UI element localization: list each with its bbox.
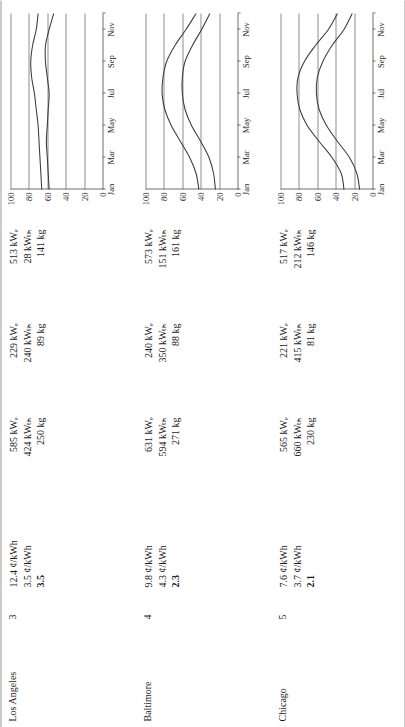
system-a-cell: 585 kWₑ 424 kWₜₕ 250 kg [6, 417, 47, 491]
system-a-therm: 660 kWₜₕ [290, 417, 304, 491]
rotated-table-stage: Los Angeles 3 12.4 ¢/kWh 3.5 ¢/kWh 3.5 5… [0, 0, 405, 727]
system-a-therm: 424 kWₜₕ [20, 417, 34, 491]
chart-plot-area: 020406080100JanMarMayJulSepNov [145, 13, 237, 189]
chart-line-upper [30, 13, 41, 189]
y-axis-tick-label: 20 [350, 192, 358, 201]
chart-series-group [10, 13, 102, 189]
x-axis-tick-label: Jan [241, 183, 250, 194]
x-axis-tick-label: May [241, 117, 250, 133]
x-axis-tick-label: Sep [241, 55, 250, 68]
gas-rate: 4.3 ¢/kWh [155, 509, 169, 587]
system-c-mass: 146 kg [303, 229, 317, 303]
y-axis-tick-label: 100 [276, 192, 284, 205]
y-axis-tick-label: 100 [141, 192, 149, 205]
system-c-therm: 151 kWₜₕ [155, 229, 169, 303]
system-a-elec: 631 kWₑ [141, 417, 155, 491]
x-axis-tick-label: Mar [241, 150, 250, 164]
system-c-elec: 517 kWₑ [276, 229, 290, 303]
x-axis-tick-label: May [376, 117, 385, 133]
system-c-cell: 513 kWₑ 28 kWₜₕ 141 kg [6, 229, 47, 303]
electric-rate: 7.6 ¢/kWh [276, 509, 290, 587]
x-axis-tick-label: Mar [376, 150, 385, 164]
x-axis-tick-label: Nov [106, 22, 115, 37]
chart-series-group [280, 13, 372, 189]
city-name: Baltimore [141, 629, 152, 721]
x-axis-tick-label: Mar [106, 150, 115, 164]
rank-value: 5 [276, 593, 287, 619]
table-row: Baltimore 4 9.8 ¢/kWh 4.3 ¢/kWh 2.3 631 … [135, 0, 270, 727]
system-b-elec: 221 kWₑ [276, 323, 290, 397]
load-profile-chart: 020406080100JanMarMayJulSepNov [143, 7, 261, 215]
chart-line-lower [45, 13, 54, 189]
rate-cell: 7.6 ¢/kWh 3.7 ¢/kWh 2.1 [276, 509, 317, 587]
gas-rate: 3.7 ¢/kWh [290, 509, 304, 587]
electric-rate: 12.4 ¢/kWh [6, 509, 20, 587]
electric-rate: 9.8 ¢/kWh [141, 509, 155, 587]
chart-plot-area: 020406080100JanMarMayJulSepNov [10, 13, 102, 189]
x-axis-tick-label: Jul [106, 88, 115, 98]
y-axis-tick-label: 80 [24, 192, 32, 201]
chart-line-lower [316, 13, 359, 189]
chart-line-upper [161, 13, 198, 189]
system-a-mass: 230 kg [303, 417, 317, 491]
system-c-elec: 513 kWₑ [6, 229, 20, 303]
y-axis-tick-label: 100 [6, 192, 14, 205]
system-b-elec: 229 kWₑ [6, 323, 20, 397]
city-name: Chicago [276, 629, 287, 721]
system-b-cell: 221 kWₑ 415 kWₜₕ 81 kg [276, 323, 317, 397]
system-a-therm: 594 kWₜₕ [155, 417, 169, 491]
system-c-cell: 517 kWₑ 212 kWₜₕ 146 kg [276, 229, 317, 303]
x-axis-tick-label: Jul [376, 88, 385, 98]
x-axis-tick-label: Sep [376, 55, 385, 68]
y-axis-tick-label: 20 [215, 192, 223, 201]
rank-value: 3 [6, 593, 17, 619]
system-a-elec: 565 kWₑ [276, 417, 290, 491]
y-axis-tick-label: 60 [178, 192, 186, 201]
y-axis-tick-label: 60 [43, 192, 51, 201]
load-profile-chart: 020406080100JanMarMayJulSepNov [8, 7, 126, 215]
system-a-mass: 250 kg [33, 417, 47, 491]
load-profile-chart: 020406080100JanMarMayJulSepNov [278, 7, 396, 215]
rate-cell: 12.4 ¢/kWh 3.5 ¢/kWh 3.5 [6, 509, 47, 587]
spark-spread: 3.5 [33, 509, 47, 587]
system-b-cell: 229 kWₑ 240 kWₜₕ 89 kg [6, 323, 47, 397]
system-b-mass: 88 kg [168, 323, 182, 397]
system-a-mass: 271 kg [168, 417, 182, 491]
y-axis-tick-label: 40 [196, 192, 204, 201]
system-b-mass: 81 kg [303, 323, 317, 397]
spark-spread: 2.1 [303, 509, 317, 587]
x-axis-tick-label: Nov [241, 22, 250, 37]
system-c-therm: 212 kWₜₕ [290, 229, 304, 303]
system-c-cell: 573 kWₑ 151 kWₜₕ 161 kg [141, 229, 182, 303]
system-b-therm: 415 kWₜₕ [290, 323, 304, 397]
x-axis-tick-label: Nov [376, 22, 385, 37]
y-axis-tick-label: 20 [80, 192, 88, 201]
table-row: Chicago 5 7.6 ¢/kWh 3.7 ¢/kWh 2.1 565 kW… [270, 0, 405, 727]
system-c-mass: 161 kg [168, 229, 182, 303]
gas-rate: 3.5 ¢/kWh [20, 509, 34, 587]
y-axis-tick-label: 80 [159, 192, 167, 201]
chart-line-lower [181, 13, 214, 189]
system-c-mass: 141 kg [33, 229, 47, 303]
system-b-elec: 240 kWₑ [141, 323, 155, 397]
y-axis-tick-label: 40 [61, 192, 69, 201]
city-name: Los Angeles [6, 629, 17, 721]
system-c-therm: 28 kWₜₕ [20, 229, 34, 303]
y-axis-tick-label: 80 [294, 192, 302, 201]
page-viewport: Los Angeles 3 12.4 ¢/kWh 3.5 ¢/kWh 3.5 5… [0, 0, 405, 727]
system-a-cell: 565 kWₑ 660 kWₜₕ 230 kg [276, 417, 317, 491]
system-b-mass: 89 kg [33, 323, 47, 397]
system-c-elec: 573 kWₑ [141, 229, 155, 303]
x-axis-tick-label: May [106, 117, 115, 133]
x-axis-tick-label: Jul [241, 88, 250, 98]
system-a-cell: 631 kWₑ 594 kWₜₕ 271 kg [141, 417, 182, 491]
x-axis-tick-label: Jan [106, 183, 115, 194]
x-axis-tick-label: Sep [106, 55, 115, 68]
system-b-therm: 240 kWₜₕ [20, 323, 34, 397]
spark-spread: 2.3 [168, 509, 182, 587]
system-b-cell: 240 kWₑ 350 kWₜₕ 88 kg [141, 323, 182, 397]
system-b-therm: 350 kWₜₕ [155, 323, 169, 397]
chart-plot-area: 020406080100JanMarMayJulSepNov [280, 13, 372, 189]
table-row: Los Angeles 3 12.4 ¢/kWh 3.5 ¢/kWh 3.5 5… [0, 0, 135, 727]
y-axis-tick-label: 40 [331, 192, 339, 201]
